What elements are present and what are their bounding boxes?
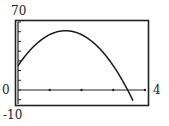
graph-plot (0, 0, 169, 126)
